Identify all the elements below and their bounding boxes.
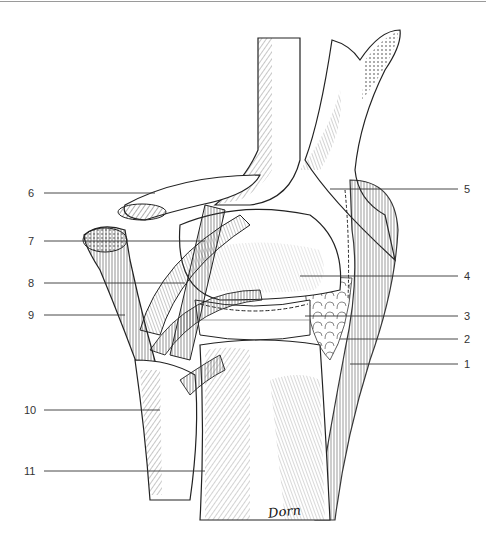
label-6: 6	[28, 187, 34, 199]
label-9: 9	[28, 309, 34, 321]
label-8: 8	[28, 277, 34, 289]
label-1: 1	[464, 358, 470, 370]
anatomical-illustration	[0, 0, 498, 549]
label-2: 2	[464, 333, 470, 345]
label-4: 4	[464, 270, 470, 282]
label-7: 7	[28, 235, 34, 247]
label-3: 3	[464, 310, 470, 322]
label-5: 5	[464, 183, 470, 195]
label-11: 11	[24, 465, 35, 477]
label-10: 10	[24, 404, 36, 416]
